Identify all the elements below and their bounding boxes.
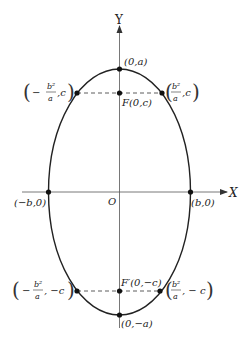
upper-focus-point bbox=[117, 90, 122, 95]
bottom-vertex-point bbox=[117, 312, 122, 317]
x-axis-label: X bbox=[228, 186, 238, 200]
lower-focus-label: F′(0,−c) bbox=[120, 277, 162, 288]
y-axis-label: Y bbox=[114, 13, 124, 27]
upper-left-latus-label: ( − b² a ,c ) bbox=[23, 80, 75, 104]
svg-text:b²: b² bbox=[172, 82, 180, 91]
right-vertex-point bbox=[188, 189, 193, 194]
upper-right-latus-label: ( b² a ,c ) bbox=[165, 80, 200, 104]
svg-text:a: a bbox=[48, 94, 53, 103]
svg-text:a: a bbox=[173, 292, 178, 301]
svg-text:b²: b² bbox=[34, 280, 42, 289]
svg-text:b²: b² bbox=[47, 82, 55, 91]
lower-right-latus-point bbox=[157, 288, 162, 293]
svg-text:−: − bbox=[22, 285, 30, 296]
svg-text:,c: ,c bbox=[182, 87, 191, 98]
origin-label: O bbox=[108, 196, 116, 207]
svg-text:): ) bbox=[67, 278, 75, 302]
svg-text:b²: b² bbox=[172, 280, 180, 289]
svg-text:(: ( bbox=[12, 278, 20, 302]
svg-text:, − c: , − c bbox=[182, 285, 206, 296]
lower-left-latus-point bbox=[74, 288, 79, 293]
svg-text:): ) bbox=[67, 80, 75, 104]
svg-text:, −c: , −c bbox=[44, 285, 65, 296]
svg-text:): ) bbox=[206, 278, 214, 302]
svg-text:): ) bbox=[192, 80, 200, 104]
bottom-vertex-label: (0,−a) bbox=[121, 318, 153, 329]
lower-right-latus-label: ( b² a , − c ) bbox=[165, 278, 214, 302]
svg-text:a: a bbox=[35, 292, 40, 301]
lower-left-latus-label: ( − b² a , −c ) bbox=[12, 278, 75, 302]
upper-right-latus-point bbox=[159, 90, 164, 95]
svg-text:,c: ,c bbox=[57, 87, 66, 98]
upper-left-latus-point bbox=[74, 90, 79, 95]
top-vertex-label: (0,a) bbox=[124, 56, 147, 67]
top-vertex-point bbox=[117, 66, 122, 71]
svg-text:(: ( bbox=[23, 80, 31, 104]
svg-text:−: − bbox=[32, 87, 40, 98]
lower-focus-point bbox=[117, 288, 122, 293]
left-vertex-label: (−b,0) bbox=[14, 197, 46, 208]
svg-text:a: a bbox=[173, 94, 178, 103]
left-vertex-point bbox=[46, 189, 51, 194]
right-vertex-label: (b,0) bbox=[191, 197, 215, 208]
upper-focus-label: F(0,c) bbox=[121, 97, 152, 108]
ellipse-diagram: Y X O (0,a) (0,−a) (−b,0) (b,0) F(0,c) F… bbox=[0, 0, 251, 348]
